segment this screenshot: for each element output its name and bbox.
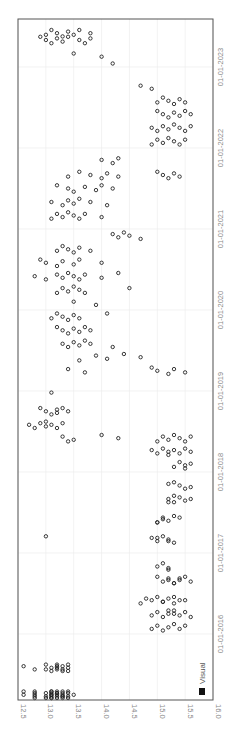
data-point xyxy=(161,173,164,176)
data-point xyxy=(167,177,170,180)
data-point xyxy=(55,32,58,35)
data-point xyxy=(111,345,114,348)
data-point xyxy=(66,248,69,251)
data-point xyxy=(55,291,58,294)
data-point xyxy=(161,125,164,128)
legend-label: Visual xyxy=(198,662,207,684)
grid-lines xyxy=(18,19,213,700)
data-point xyxy=(161,615,164,618)
data-point xyxy=(161,447,164,450)
data-point xyxy=(50,413,53,416)
data-point xyxy=(66,175,69,178)
data-point xyxy=(111,187,114,190)
data-point xyxy=(83,325,86,328)
legend-swatch xyxy=(199,688,205,695)
data-point xyxy=(172,123,175,126)
data-point xyxy=(172,140,175,143)
data-point xyxy=(144,597,147,600)
data-point xyxy=(122,231,125,234)
data-point xyxy=(66,187,69,190)
data-point xyxy=(189,450,192,453)
data-point xyxy=(178,614,181,617)
data-point xyxy=(33,668,36,671)
data-point xyxy=(50,423,53,426)
data-point xyxy=(22,665,25,668)
data-point xyxy=(61,329,64,332)
date-tick-label: 01-01-2016 xyxy=(216,615,225,653)
data-point xyxy=(172,541,175,544)
data-point xyxy=(89,32,92,35)
data-point xyxy=(83,339,86,342)
data-point xyxy=(66,367,69,370)
date-tick-label: 01-01-2017 xyxy=(216,534,225,572)
data-point xyxy=(150,143,153,146)
data-point xyxy=(55,184,58,187)
data-point xyxy=(172,102,175,105)
data-point xyxy=(94,354,97,357)
data-point xyxy=(117,236,120,239)
data-point xyxy=(89,200,92,203)
data-point xyxy=(33,426,36,429)
data-point xyxy=(61,204,64,207)
data-point xyxy=(55,273,58,276)
data-point xyxy=(55,312,58,315)
data-point xyxy=(117,437,120,440)
data-point xyxy=(178,484,181,487)
data-point xyxy=(167,438,170,441)
data-point xyxy=(139,356,142,359)
data-point xyxy=(167,372,170,375)
data-point xyxy=(55,212,58,215)
data-point xyxy=(55,249,58,252)
data-point xyxy=(66,290,69,293)
data-point xyxy=(178,599,181,602)
data-point xyxy=(78,278,81,281)
data-point xyxy=(161,580,164,583)
value-tick-label: 15.5 xyxy=(186,704,195,719)
data-point xyxy=(66,345,69,348)
data-point xyxy=(178,496,181,499)
data-point xyxy=(161,535,164,538)
data-point xyxy=(105,172,108,175)
data-point xyxy=(78,359,81,362)
data-point xyxy=(172,622,175,625)
data-point xyxy=(89,249,92,252)
data-point xyxy=(178,516,181,519)
data-point xyxy=(167,128,170,131)
data-point xyxy=(66,211,69,214)
data-point xyxy=(178,175,181,178)
data-point xyxy=(83,291,86,294)
date-tick-label: 01-01-2021 xyxy=(216,210,225,248)
data-point xyxy=(55,264,58,267)
data-point xyxy=(55,37,58,40)
data-point xyxy=(89,342,92,345)
data-point xyxy=(61,35,64,38)
date-tick-label: 01-01-2020 xyxy=(216,291,225,329)
data-point xyxy=(150,87,153,90)
data-point xyxy=(172,448,175,451)
data-point xyxy=(167,519,170,522)
data-point xyxy=(61,342,64,345)
data-point xyxy=(172,481,175,484)
data-point xyxy=(83,273,86,276)
data-point xyxy=(117,175,120,178)
date-tick-label: 01-01-2018 xyxy=(216,453,225,491)
data-point xyxy=(50,200,53,203)
data-point xyxy=(105,312,108,315)
data-point xyxy=(83,42,86,45)
data-point xyxy=(61,406,64,409)
data-point xyxy=(105,204,108,207)
data-point xyxy=(189,615,192,618)
data-point xyxy=(178,126,181,129)
data-point xyxy=(150,599,153,602)
data-point xyxy=(172,582,175,585)
data-point xyxy=(167,597,170,600)
value-tick-label: 13.5 xyxy=(74,704,83,719)
data-point xyxy=(189,497,192,500)
data-point xyxy=(66,30,69,33)
data-point xyxy=(78,330,81,333)
data-point xyxy=(83,212,86,215)
plot-frame xyxy=(18,19,213,700)
data-point xyxy=(66,199,69,202)
data-point xyxy=(189,485,192,488)
data-point xyxy=(78,288,81,291)
